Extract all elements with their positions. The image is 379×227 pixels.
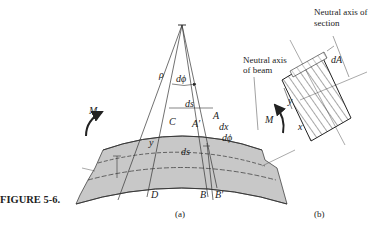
label-ds-top: ds bbox=[185, 98, 194, 109]
label-rho: ρ bbox=[158, 69, 164, 80]
label-A-prime: A′ bbox=[191, 118, 201, 129]
label-dx: dx bbox=[219, 121, 229, 132]
label-neutral-axis-section-1: Neutral axis of bbox=[314, 7, 367, 17]
moment-arrow-right bbox=[275, 105, 284, 133]
label-neutral-axis-beam-2: of beam bbox=[243, 65, 272, 75]
label-y-a: y bbox=[148, 137, 154, 148]
label-neutral-axis-beam-1: Neutral axis bbox=[243, 55, 287, 65]
label-D: D bbox=[150, 189, 159, 200]
figure-caption: FIGURE 5-6. bbox=[0, 194, 60, 205]
label-dphi-top: dϕ bbox=[176, 73, 186, 84]
label-B-prime: B′ bbox=[215, 189, 224, 200]
panel-b-label: (b) bbox=[314, 209, 325, 219]
label-B: B bbox=[200, 189, 206, 200]
panel-a-label: (a) bbox=[175, 209, 185, 219]
label-y-b: y bbox=[287, 95, 293, 106]
label-neutral-axis-section-2: section bbox=[314, 18, 340, 28]
label-A: A bbox=[212, 110, 220, 121]
figure-5-6: ρ dϕ ds M C A′ A dx dϕ y ds M x D B B′ (… bbox=[0, 0, 379, 227]
label-C: C bbox=[169, 116, 176, 127]
label-dphi-small: dϕ bbox=[222, 132, 232, 143]
label-M-left: M bbox=[88, 105, 98, 116]
label-dA: dA bbox=[331, 54, 343, 65]
label-M-right: M bbox=[264, 114, 274, 125]
label-ds-mid: ds bbox=[181, 146, 190, 157]
